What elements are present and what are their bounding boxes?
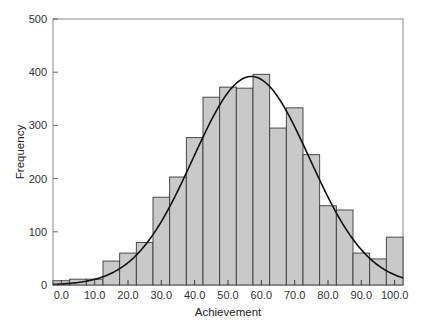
y-axis-title: Frequency — [14, 125, 26, 180]
y-tick-label: 200 — [29, 173, 47, 185]
y-tick-label: 300 — [29, 119, 47, 131]
histogram-bar — [136, 242, 153, 285]
x-tick-label: 70.0 — [284, 289, 305, 301]
x-tick-label: 40.0 — [184, 289, 205, 301]
y-tick-label: 0 — [41, 279, 47, 291]
y-tick-label: 500 — [29, 13, 47, 25]
x-tick-label: 10.0 — [84, 289, 105, 301]
histogram-bar — [220, 87, 237, 285]
histogram-bar — [203, 97, 220, 285]
x-tick-label: 50.0 — [217, 289, 238, 301]
histogram-bar — [170, 177, 187, 285]
histogram-bar — [186, 138, 203, 285]
y-tick-label: 400 — [29, 66, 47, 78]
histogram-bar — [270, 128, 287, 285]
x-tick-label: 90.0 — [351, 289, 372, 301]
x-tick-label: 80.0 — [317, 289, 338, 301]
histogram-bar — [320, 206, 337, 285]
histogram-bar — [370, 259, 387, 285]
histogram-bar — [286, 108, 303, 285]
histogram-chart: 0100200300400500 0.010.020.030.040.050.0… — [0, 0, 422, 330]
x-tick-label: 30.0 — [151, 289, 172, 301]
y-tick-label: 100 — [29, 226, 47, 238]
x-tick-label: 100.0 — [381, 289, 409, 301]
histogram-bar — [253, 74, 270, 285]
x-tick-label: 0.0 — [54, 289, 69, 301]
x-tick-label: 60.0 — [251, 289, 272, 301]
x-axis-title: Achievement — [195, 306, 262, 318]
histogram-bar — [336, 210, 353, 285]
histogram-bar — [236, 88, 253, 285]
x-tick-label: 20.0 — [117, 289, 138, 301]
